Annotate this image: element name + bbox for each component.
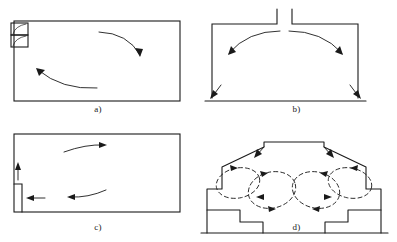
upper-jet-arrowhead-a <box>135 48 143 57</box>
right-inner-vortex-d <box>288 167 343 214</box>
lower-return-arrow-a <box>38 70 97 88</box>
room-outline-c <box>14 134 180 212</box>
left-inner-vortex-d <box>244 167 299 214</box>
panel-a-drawing <box>0 0 196 120</box>
left-ceiling-jet-arrow-b <box>229 31 280 53</box>
panel-b <box>196 0 397 120</box>
sidewall-inlet-duct-c <box>14 184 22 212</box>
lower-return-arrow-c <box>70 190 106 197</box>
right-outer-vortex-arrowhead-d <box>350 165 358 171</box>
right-ceiling-jet-arrow-b <box>289 31 342 53</box>
room-outline-left-b <box>212 9 277 98</box>
room-outline-right-b <box>292 9 358 98</box>
panel-a <box>0 0 196 120</box>
right-inner-vortex-arrowhead-d <box>320 171 328 177</box>
left-inner-vortex-arrowhead2-d <box>256 194 264 200</box>
panel-caption-b: b) <box>196 104 397 114</box>
figure-root: a) <box>0 0 397 242</box>
right-inner-vortex-arrowhead2-d <box>324 194 332 200</box>
panel-b-drawing <box>196 0 397 120</box>
left-outer-vortex-arrowhead-d <box>230 165 238 171</box>
panel-caption-d: d) <box>196 222 397 232</box>
supply-in-arrowhead-c <box>26 195 34 201</box>
panel-caption-a: a) <box>0 104 196 114</box>
left-inner-vortex-arrowhead-d <box>260 171 268 177</box>
register-vane-lower-a <box>13 36 26 46</box>
upper-flow-arrow-c <box>64 145 104 152</box>
panel-caption-c: c) <box>0 222 196 232</box>
right-inner-vortex-arrowhead3-d <box>312 206 320 212</box>
left-outer-vortex-d <box>213 164 262 202</box>
hall-outline-d <box>207 142 381 233</box>
register-vane-upper-a <box>13 24 26 34</box>
left-inner-vortex-arrowhead3-d <box>268 206 276 212</box>
room-outline-a <box>14 21 180 101</box>
left-floor-corner-arrowhead-b <box>210 90 218 99</box>
upper-flow-arrowhead-c <box>99 142 107 148</box>
upper-jet-arrow-a <box>99 32 140 55</box>
lower-return-arrowhead-c <box>67 194 75 200</box>
exhaust-up-arrowhead-c <box>15 162 21 170</box>
right-outer-vortex-d <box>325 164 374 202</box>
